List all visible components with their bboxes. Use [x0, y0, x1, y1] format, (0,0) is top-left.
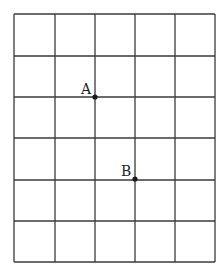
grid-diagram: AB: [0, 0, 224, 274]
point-a-label: A: [80, 81, 92, 97]
points: AB: [80, 81, 138, 182]
point-b-label: B: [121, 163, 131, 179]
point-b-dot: [132, 176, 137, 181]
grid-lines: [14, 14, 215, 262]
point-a-dot: [92, 94, 97, 99]
